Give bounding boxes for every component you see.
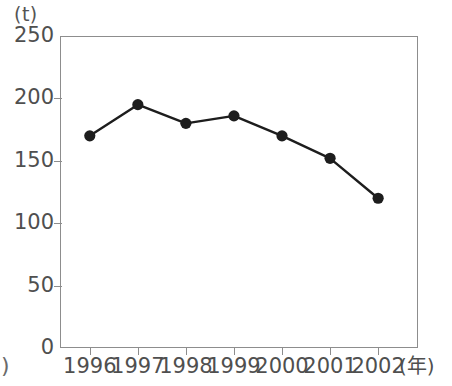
data-point-marker: 1996: 170 [84,130,95,141]
data-point-marker: 2000: 170 [276,130,287,141]
scan-artifact-parenthesis: ) [1,352,10,380]
x-axis-tick-mark [186,348,187,355]
data-point-marker: 2002: 120 [373,193,384,204]
x-axis-tick-label-group: (年) 1996199719981999200020012002 [0,352,452,384]
data-series-layer: 1996: 1701997: 1951998: 1801999: 1862000… [0,0,452,386]
x-axis-tick-label: 1998 [159,352,212,380]
x-axis-tick-label: 2000 [255,352,308,380]
data-point-marker: 1999: 186 [228,110,239,121]
data-point-marker: 2001: 152 [324,153,335,164]
x-axis-tick-label: 1999 [207,352,260,380]
x-axis-tick-mark [378,348,379,355]
data-point-marker: 1998: 180 [180,118,191,129]
series-marker-group: 1996: 1701997: 1951998: 1801999: 1862000… [84,99,384,204]
x-axis-tick-label: 1997 [111,352,164,380]
x-axis-tick-mark [90,348,91,355]
x-axis-tick-mark [282,348,283,355]
x-axis-tick-mark [138,348,139,355]
x-axis-tick-label: 2002 [351,352,404,380]
data-point-marker: 1997: 195 [132,99,143,110]
y-axis-tick-mark [54,223,62,224]
y-axis-tick-mark [54,286,62,287]
x-axis-tick-mark [234,348,235,355]
y-axis-tick-mark [54,161,62,162]
x-axis-tick-label: 2001 [303,352,356,380]
x-axis-tick-mark [330,348,331,355]
x-axis-tick-label: 1996 [63,352,116,380]
y-axis-tick-mark [54,98,62,99]
line-chart-figure: (t) 050100150200250 1996: 1701997: 19519… [0,0,452,386]
